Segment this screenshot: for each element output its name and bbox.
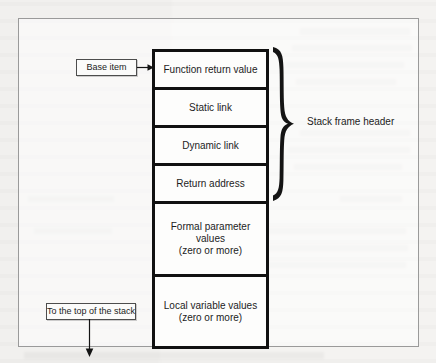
stack-frame-column: Function return value Static link Dynami… [152,49,269,349]
stack-cell-label-line-2: (zero or more) [179,312,242,324]
base-item-callout: Base item [76,59,137,76]
stack-cell-label: Function return value [164,64,258,76]
scan-artifact [24,352,324,359]
stack-cell-label-line-1: Formal parameter [171,221,250,233]
stack-cell-static-link: Static link [155,90,266,128]
stack-cell-label-line-2: values [196,233,225,245]
stack-cell-label-line-1: Local variable values [164,300,257,312]
top-of-stack-callout: To the top of the stack [46,303,136,320]
top-of-stack-arrow-icon [82,319,97,357]
stack-cell-label: Dynamic link [182,140,239,152]
stack-cell-local-variable-values: Local variable values (zero or more) [155,277,266,346]
stack-cell-dynamic-link: Dynamic link [155,128,266,166]
stack-cell-function-return-value: Function return value [155,52,266,90]
base-item-label: Base item [86,63,126,72]
stack-frame-header-label: Stack frame header [307,116,394,127]
top-of-stack-label: To the top of the stack [47,307,135,316]
stack-cell-label: Return address [176,178,244,190]
stack-cell-return-address: Return address [155,166,266,204]
curly-brace-icon [271,45,301,203]
figure-frame: Function return value Static link Dynami… [18,18,419,347]
stack-cell-formal-parameter-values: Formal parameter values (zero or more) [155,204,266,277]
stack-cell-label: Static link [189,102,232,114]
base-item-arrow-icon [137,61,154,74]
stack-cell-label-line-3: (zero or more) [179,245,242,257]
